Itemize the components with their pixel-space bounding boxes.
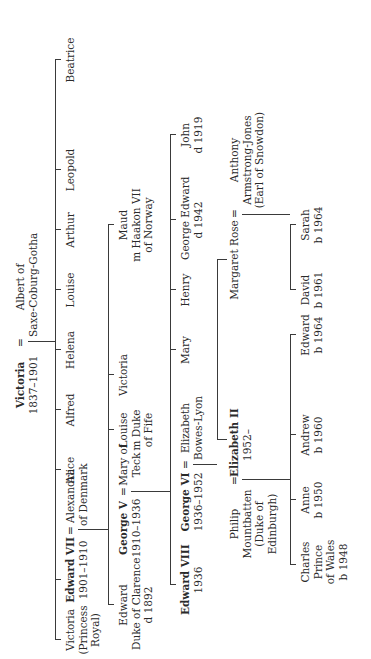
gen1-tick [55,409,61,410]
name-line: Edward [299,310,312,360]
gen1-tick [55,169,61,170]
name-line: of Norway [142,185,155,265]
spouse-line: Mountbatten [241,489,254,559]
reign-dates: 1936 [192,545,205,615]
albert-line2: Saxe-Coburg-Gotha [27,237,40,337]
person-name: Edward VII [64,535,77,605]
gen1-arthur: Arthur [64,210,77,250]
gen3-tick [170,134,176,135]
gen2-edward-duke-of-clarence: Edward Duke of Clarence d 1892 [117,560,155,650]
gen1-edward-vii: Edward VII 1901–1910 [64,535,89,605]
gen5-elizabeth-bracket [290,334,291,565]
person-name: Beatrice [64,35,77,85]
gen5-andrew: Andrew b 1960 [299,410,324,460]
name-line: of Fife [142,405,155,455]
gen5-sarah: Sarah b 1964 [299,200,324,250]
person-name: Arthur [64,210,77,250]
victoria-name: Victoria [14,350,27,420]
gen5-margaret-bracket [290,224,291,290]
gen3-tick [170,289,176,290]
name-line: Duke of Clarence [130,560,143,650]
gen1-louise: Louise [64,270,77,310]
name-line: m Haakon VII [130,185,143,265]
gen2-george-v: George V 1910–1936 [117,493,142,563]
reign-dates: 1952– [241,405,254,477]
gen3-tick [170,584,176,585]
george-v-drop-line [131,491,170,492]
gen3-henry: Henry [179,270,192,310]
person-name: George VI [179,469,192,535]
gen1-beatrice: Beatrice [64,35,77,85]
name-line: George Edward [179,180,192,260]
person-name: Alfred [64,390,77,430]
marriage-sign: = [228,476,240,485]
gen5-tick [290,289,296,290]
spouse-line: Anthony [228,110,241,210]
name-line: John [179,110,192,160]
gen5-tick [290,334,296,335]
person-name: George V [117,493,130,563]
gen2-tick [108,224,114,225]
name-line: b 1960 [312,410,325,460]
gen5-edward: Edward b 1964 [299,310,324,360]
gen1-tick [55,289,61,290]
person-name: Henry [179,270,192,310]
spouse-line: Armstrong-Jones [241,110,254,210]
name-line: Andrew [299,410,312,460]
gen3-bracket [170,134,171,585]
spouse-line: of Denmark [77,466,90,526]
gen1-tick [55,229,61,230]
gen4-tick [217,439,227,440]
spouse-line: Philip [228,489,241,559]
victoria-reign: 1837–1901 [27,350,40,420]
gen2-tick [108,429,114,430]
reign-dates: 1910–1936 [130,493,143,563]
gen3-george-edward: George Edward d 1942 [179,180,204,260]
name-line: of Wales [324,534,337,590]
name-line: Charles [299,534,312,590]
person-name: Leopold [64,145,77,195]
person-name: Victoria [117,350,130,400]
gen4-anthony-armstrong-jones: Anthony Armstrong-Jones (Earl of Snowdon… [228,110,266,210]
person-name: Mary [179,330,192,370]
victoria-node: Victoria 1837–1901 [14,350,39,420]
person-name: Helena [64,330,77,370]
gen5-anne: Anne b 1950 [299,475,324,525]
gen3-tick [170,219,176,220]
person-name: Alice [64,450,77,490]
margaret-drop-line [242,214,290,215]
gen1-helena: Helena [64,330,77,370]
gen4-tick [217,259,227,260]
gen1-tick [55,639,61,640]
gen5-tick [290,224,296,225]
name-line: b 1964 [312,200,325,250]
spouse-line: (Duke of [253,489,266,559]
gen3-edward-viii: Edward VIII 1936 [179,545,204,615]
elizabeth-ii-drop-line [242,479,290,480]
albert-line1: Albert of [14,237,27,337]
gen5-charles: Charles Prince of Wales b 1948 [299,534,349,590]
edward-vii-drop-line [78,529,108,530]
name-line: Maud [117,185,130,265]
name-line: David [299,265,312,315]
gen1-alice: Alice [64,450,77,490]
name-line: d 1892 [142,560,155,650]
marriage-sign: = [228,209,240,218]
albert-node: Albert of Saxe-Coburg-Gotha [14,237,39,337]
gen2-tick [108,604,114,605]
gen2-louise: Louise m Duke of Fife [117,405,155,455]
name-line: Prince [312,534,325,590]
name-line: Victoria [64,600,77,659]
gen3-mary: Mary [179,330,192,370]
george-vi-drop-line [193,464,217,465]
spouse-line: Bowes-Lyon [192,394,205,462]
marriage-sign: = [14,338,26,347]
name-line: (Princess [77,600,90,659]
name-line: m Duke [130,405,143,455]
gen2-victoria: Victoria [117,350,130,400]
spouse-line: Elizabeth [179,394,192,462]
name-line: Edward [117,560,130,650]
name-line: Sarah [299,200,312,250]
root-drop-line [28,341,55,342]
spouse-line: Edinburgh) [266,489,279,559]
